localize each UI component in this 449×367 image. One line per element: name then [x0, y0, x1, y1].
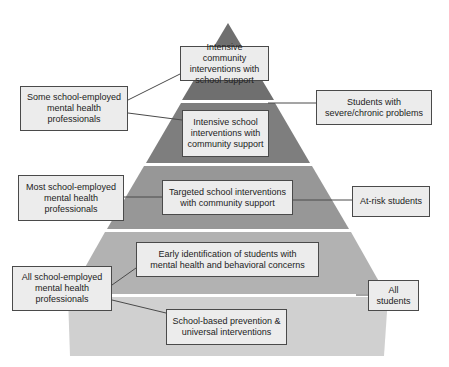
tier-5-label-box: School-based prevention & universal inte…: [166, 309, 287, 345]
tiered-support-pyramid-diagram: Intensive community interventions with s…: [0, 0, 449, 367]
population-all-box: All students: [368, 280, 419, 311]
provider-some-box: Some school-employed mental health profe…: [20, 86, 128, 131]
population-at-risk-box: At-risk students: [352, 186, 430, 217]
tier-2-label-box: Intensive school interventions with comm…: [182, 110, 269, 157]
tier-3-label-box: Targeted school interventions with commu…: [162, 180, 293, 215]
tier-4-label-box: Early identification of students with me…: [136, 242, 319, 277]
population-severe-box: Students with severe/chronic problems: [316, 90, 432, 125]
connector-some-to-tier1: [128, 74, 180, 100]
provider-all-box: All school-employed mental health profes…: [12, 266, 112, 311]
provider-most-box: Most school-employed mental health profe…: [18, 175, 124, 221]
tier-1-label-box: Intensive community interventions with s…: [180, 46, 269, 81]
